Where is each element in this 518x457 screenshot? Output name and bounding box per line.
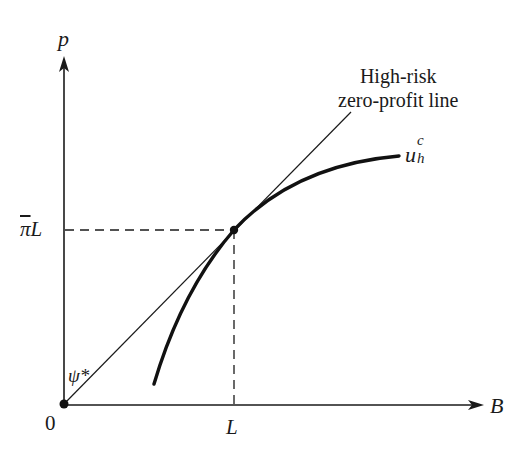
origin-point [60, 400, 69, 409]
curve-label-superscript: c [417, 132, 424, 149]
curve-label-base: u [405, 142, 416, 167]
pi-l-suffix: L [31, 217, 43, 241]
indifference-curve-uhc [154, 156, 399, 384]
zero-profit-line-label: High-risk zero-profit line [338, 64, 459, 112]
y-tick-label-pi-l: πL [20, 217, 42, 242]
zero-profit-line [64, 112, 351, 404]
origin-label: 0 [45, 411, 56, 436]
zero-profit-line-label-line1: High-risk [338, 64, 459, 88]
x-tick-label-l: L [226, 415, 238, 440]
curve-label-uhc: uch [405, 142, 428, 168]
angle-label-psi-star: ψ* [68, 365, 89, 387]
x-axis-label: B [490, 393, 503, 419]
y-axis-label: p [58, 26, 69, 52]
curve-label-subscript: h [417, 150, 425, 167]
pi-bar-symbol: π [20, 217, 31, 241]
tangency-point [230, 226, 238, 234]
zero-profit-line-label-line2: zero-profit line [338, 88, 459, 112]
